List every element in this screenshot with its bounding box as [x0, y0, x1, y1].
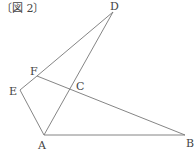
point-label-D: D: [110, 0, 119, 13]
segment-EA: [20, 90, 44, 135]
point-label-F: F: [30, 65, 38, 78]
point-label-C: C: [76, 80, 84, 93]
geometry-figure: 〔図 2〕 D E F C A B: [0, 0, 196, 155]
figure-svg: 〔図 2〕 D E F C A B: [0, 0, 196, 155]
segment-EF: [20, 76, 37, 90]
figure-caption: 〔図 2〕: [1, 2, 45, 15]
point-label-E: E: [9, 85, 17, 98]
segment-FD: [37, 12, 113, 76]
segment-FB: [37, 76, 185, 135]
point-label-A: A: [37, 139, 47, 152]
point-label-B: B: [186, 137, 194, 150]
segment-DA: [44, 12, 113, 135]
